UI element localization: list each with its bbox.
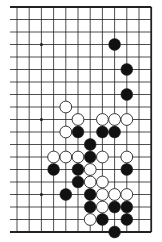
black-stone (60, 189, 72, 201)
black-stone (84, 201, 96, 213)
white-stone (60, 126, 72, 138)
white-stone (72, 151, 84, 163)
white-stone (60, 151, 72, 163)
white-stone (121, 114, 133, 126)
black-stone (121, 89, 133, 101)
white-stone (97, 201, 109, 213)
star-point (40, 118, 43, 121)
black-stone (109, 39, 121, 51)
black-stone (72, 164, 84, 176)
white-stone (121, 189, 133, 201)
black-stone (121, 64, 133, 76)
white-stone (60, 101, 72, 113)
white-stone (84, 164, 96, 176)
black-stone (84, 189, 96, 201)
white-stone (109, 114, 121, 126)
go-board-diagram (0, 0, 162, 242)
black-stone (121, 164, 133, 176)
white-stone (72, 114, 84, 126)
white-stone (84, 176, 96, 188)
white-stone (48, 151, 60, 163)
black-stone (48, 164, 60, 176)
black-stone (109, 201, 121, 213)
black-stone (72, 176, 84, 188)
star-point (40, 193, 43, 196)
star-point (40, 43, 43, 46)
black-stone (109, 226, 121, 238)
white-stone (84, 214, 96, 226)
white-stone (97, 176, 109, 188)
black-stone (72, 126, 84, 138)
white-stone (97, 151, 109, 163)
black-stone (84, 139, 96, 151)
white-stone (97, 114, 109, 126)
white-stone (109, 189, 121, 201)
white-stone (97, 189, 109, 201)
black-stone (121, 214, 133, 226)
black-stone (109, 126, 121, 138)
black-stone (97, 214, 109, 226)
black-stone (97, 126, 109, 138)
black-stone (121, 201, 133, 213)
black-stone (84, 151, 96, 163)
white-stone (121, 151, 133, 163)
